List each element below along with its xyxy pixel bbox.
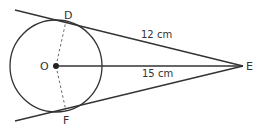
center-point-O: [53, 63, 59, 69]
label-O: O: [40, 60, 49, 73]
tangent-line-DE: [15, 10, 243, 66]
length-label-DE: 12 cm: [141, 29, 172, 40]
tangent-line-FE: [15, 66, 243, 121]
label-E: E: [246, 60, 253, 73]
radius-OD: [56, 21, 66, 66]
length-label-OE: 15 cm: [142, 68, 173, 79]
tangent-diagram: O D F E 12 cm 15 cm: [0, 0, 262, 128]
radius-OF: [56, 66, 66, 111]
label-F: F: [63, 114, 69, 127]
label-D: D: [64, 9, 72, 22]
